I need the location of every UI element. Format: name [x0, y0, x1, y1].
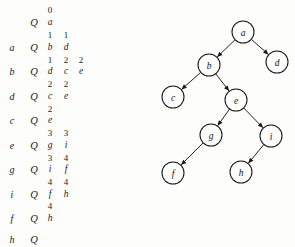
trace-stack-entry: e: [48, 116, 52, 126]
trace-vertex-label: h: [10, 235, 15, 245]
trace-discovery-number: 2: [64, 80, 69, 89]
trace-queue-marker: Q: [30, 165, 38, 176]
node-label: h: [239, 168, 244, 178]
trace-discovery-number: 2: [48, 80, 53, 89]
node-label: g: [209, 131, 214, 141]
node-label: a: [241, 28, 246, 38]
trace-discovery-number: 1: [48, 56, 53, 65]
trace-vertex-label: d: [10, 92, 15, 102]
trace-stack-entry: h: [48, 214, 53, 224]
trace-queue-marker: Q: [30, 43, 38, 54]
trace-queue-marker: Q: [30, 214, 38, 225]
trace-vertex-label: i: [11, 190, 14, 200]
tree-node-c[interactable]: c: [162, 86, 184, 108]
trace-stack-entry: e: [64, 92, 68, 102]
trace-vertex-label: c: [10, 116, 14, 126]
trace-stack-entry: h: [64, 190, 69, 200]
trace-stack-entry: f: [49, 190, 52, 200]
trace-vertex-label: b: [10, 67, 15, 77]
trace-queue-marker: Q: [30, 116, 38, 127]
trace-discovery-number: 1: [64, 31, 69, 40]
tree-edge-a-d: [251, 39, 268, 54]
trace-queue-marker: Q: [30, 18, 38, 29]
tree-edge-i-h: [248, 144, 264, 163]
trace-discovery-number: 3: [64, 129, 69, 138]
trace-stack-entry: a: [48, 18, 53, 28]
tree-node-f[interactable]: f: [162, 162, 184, 184]
tree-node-a[interactable]: a: [232, 21, 254, 43]
tree-edge-b-e: [216, 74, 229, 91]
tree-edge-a-b: [217, 40, 235, 57]
trace-discovery-number: 2: [48, 105, 53, 114]
trace-discovery-number: 1: [48, 31, 53, 40]
trace-discovery-number: 0: [48, 6, 53, 15]
tree-edge-b-c: [182, 72, 201, 89]
trace-discovery-number: 4: [64, 154, 69, 163]
trace-queue-marker: Q: [30, 235, 38, 246]
tree-edge-g-f: [181, 143, 203, 165]
trace-discovery-number: 4: [48, 178, 53, 187]
node-label: i: [270, 132, 273, 142]
tree-node-h[interactable]: h: [230, 161, 252, 183]
trace-discovery-number: 4: [48, 202, 53, 211]
figure-canvas: 0Qa11aQbd122bQdce22dQce2cQe33eQgi34gQif4…: [0, 0, 295, 247]
trace-vertex-label: a: [10, 43, 15, 53]
node-label: e: [234, 96, 238, 106]
trace-stack-entry: d: [64, 43, 69, 53]
trace-vertex-label: f: [11, 214, 14, 224]
tree-node-e[interactable]: e: [225, 89, 247, 111]
trace-queue-marker: Q: [30, 92, 38, 103]
tree-node-layer: abdcegifh: [162, 21, 288, 184]
trace-vertex-label: e: [10, 141, 14, 151]
tree-edge-e-i: [244, 108, 263, 128]
trace-stack-entry: d: [48, 67, 53, 77]
edge-arrowhead-icon: [218, 120, 223, 126]
trace-discovery-number: 2: [79, 56, 84, 65]
trace-queue-marker: Q: [30, 67, 38, 78]
trace-queue-marker: Q: [30, 190, 38, 201]
trace-stack-entry: i: [49, 165, 52, 175]
tree-node-g[interactable]: g: [200, 124, 222, 146]
edge-arrowhead-icon: [224, 85, 229, 91]
trace-stack-entry: b: [48, 43, 53, 53]
tree-node-b[interactable]: b: [198, 54, 220, 76]
trace-discovery-number: 3: [48, 154, 53, 163]
tree-node-d[interactable]: d: [266, 51, 288, 73]
tree-edge-e-g: [218, 109, 230, 126]
trace-discovery-number: 2: [64, 56, 69, 65]
trace-stack-entry: g: [48, 141, 53, 151]
node-label: b: [207, 61, 212, 71]
tree-node-i[interactable]: i: [260, 125, 282, 147]
trace-discovery-number: 3: [48, 129, 53, 138]
trace-vertex-label: g: [10, 165, 15, 175]
trace-stack-entry: c: [64, 67, 68, 77]
dfs-tree-diagram: abdcegifh: [150, 0, 295, 247]
trace-queue-marker: Q: [30, 141, 38, 152]
trace-stack-entry: f: [65, 165, 68, 175]
trace-stack-entry: i: [65, 141, 68, 151]
trace-stack-entry: c: [48, 92, 52, 102]
trace-stack-entry: e: [79, 67, 83, 77]
algorithm-trace-table: 0Qa11aQbd122bQdce22dQce2cQe33eQgi34gQif4…: [0, 0, 150, 247]
trace-discovery-number: 4: [64, 178, 69, 187]
node-label: d: [275, 58, 280, 68]
tree-svg: abdcegifh: [150, 0, 295, 247]
